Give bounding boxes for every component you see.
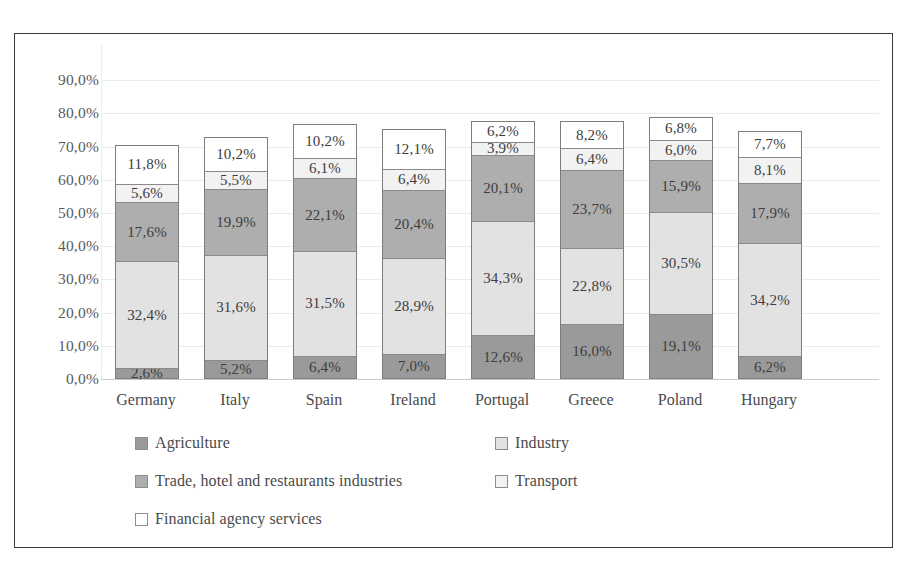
bar-segment-value-label: 22,1% xyxy=(305,208,345,223)
bar-segment-value-label: 34,2% xyxy=(750,293,790,308)
x-axis-category-label: Portugal xyxy=(471,391,533,409)
bar-segment-trade[interactable]: 22,1% xyxy=(294,179,356,252)
bar-segment-value-label: 17,9% xyxy=(750,206,790,221)
bar-stack[interactable]: 12,6%34,3%20,1%3,9%6,2% xyxy=(471,121,535,379)
bar-segment-value-label: 6,2% xyxy=(754,360,786,375)
legend-item[interactable]: Agriculture xyxy=(135,434,495,452)
bar-segment-financial[interactable]: 12,1% xyxy=(383,130,445,170)
y-axis-tick-30: 30,0% xyxy=(33,270,99,288)
bar-segment-value-label: 12,1% xyxy=(394,142,434,157)
bar-segment-industry[interactable]: 28,9% xyxy=(383,259,445,355)
bar-segment-financial[interactable]: 10,2% xyxy=(294,125,356,159)
bar-segment-financial[interactable]: 6,8% xyxy=(650,118,712,141)
bar-segment-transport[interactable]: 5,5% xyxy=(205,172,267,190)
legend-row: Trade, hotel and restaurants industriesT… xyxy=(135,472,835,490)
bar-segment-industry[interactable]: 22,8% xyxy=(561,249,623,325)
bar-segment-value-label: 5,2% xyxy=(220,362,252,377)
bar-segment-agriculture[interactable]: 12,6% xyxy=(472,336,534,378)
legend-label: Trade, hotel and restaurants industries xyxy=(155,472,402,490)
bar-segment-agriculture[interactable]: 6,2% xyxy=(739,357,801,378)
bar-segment-industry[interactable]: 31,6% xyxy=(205,256,267,361)
bar-segment-agriculture[interactable]: 6,4% xyxy=(294,357,356,378)
bar-stack[interactable]: 7,0%28,9%20,4%6,4%12,1% xyxy=(382,129,446,379)
bar-segment-value-label: 6,4% xyxy=(576,152,608,167)
gridline-90 xyxy=(101,80,879,81)
bar-segment-industry[interactable]: 34,2% xyxy=(739,244,801,358)
bar-segment-financial[interactable]: 10,2% xyxy=(205,138,267,172)
bar-segment-value-label: 20,4% xyxy=(394,217,434,232)
bar-segment-value-label: 3,9% xyxy=(487,141,519,156)
legend-swatch-icon xyxy=(495,437,508,450)
x-axis-category-label: Spain xyxy=(293,391,355,409)
bar-segment-agriculture[interactable]: 2,6% xyxy=(116,369,178,378)
bar-segment-transport[interactable]: 6,4% xyxy=(383,170,445,191)
bar-segment-value-label: 16,0% xyxy=(572,344,612,359)
bar-segment-trade[interactable]: 20,4% xyxy=(383,191,445,259)
bar-segment-value-label: 17,6% xyxy=(127,225,167,240)
bar-segment-value-label: 31,5% xyxy=(305,296,345,311)
bar-segment-value-label: 32,4% xyxy=(127,308,167,323)
bar-segment-trade[interactable]: 19,9% xyxy=(205,190,267,256)
bar-segment-value-label: 5,6% xyxy=(131,186,163,201)
bar-segment-agriculture[interactable]: 5,2% xyxy=(205,361,267,378)
bar-segment-value-label: 5,5% xyxy=(220,173,252,188)
legend-item[interactable]: Trade, hotel and restaurants industries xyxy=(135,472,495,490)
bar-segment-value-label: 11,8% xyxy=(127,157,166,172)
bar-segment-value-label: 6,2% xyxy=(487,124,519,139)
x-axis-line xyxy=(101,379,879,380)
x-axis-category-label: Italy xyxy=(204,391,266,409)
bar-segment-industry[interactable]: 31,5% xyxy=(294,252,356,357)
y-axis-tick-0: 0,0% xyxy=(33,370,99,388)
bar-segment-trade[interactable]: 15,9% xyxy=(650,161,712,214)
bar-stack[interactable]: 2,6%32,4%17,6%5,6%11,8% xyxy=(115,145,179,379)
legend-label: Financial agency services xyxy=(155,510,322,528)
bar-segment-transport[interactable]: 6,4% xyxy=(561,149,623,170)
bar-segment-transport[interactable]: 6,0% xyxy=(650,141,712,161)
legend-item[interactable]: Transport xyxy=(495,472,578,490)
bar-segment-agriculture[interactable]: 16,0% xyxy=(561,325,623,378)
bar-segment-trade[interactable]: 17,9% xyxy=(739,184,801,243)
bar-segment-value-label: 8,1% xyxy=(754,163,786,178)
bar-segment-financial[interactable]: 7,7% xyxy=(739,132,801,158)
y-axis-tick-70: 70,0% xyxy=(33,138,99,156)
bar-segment-value-label: 28,9% xyxy=(394,299,434,314)
y-axis-tick-50: 50,0% xyxy=(33,204,99,222)
bar-stack[interactable]: 16,0%22,8%23,7%6,4%8,2% xyxy=(560,121,624,379)
y-axis-tick-80: 80,0% xyxy=(33,104,99,122)
bar-segment-trade[interactable]: 17,6% xyxy=(116,203,178,261)
y-axis-tick-40: 40,0% xyxy=(33,237,99,255)
bar-segment-industry[interactable]: 32,4% xyxy=(116,262,178,370)
bar-segment-trade[interactable]: 23,7% xyxy=(561,171,623,250)
bar-segment-industry[interactable]: 34,3% xyxy=(472,222,534,336)
chart-legend: AgricultureIndustryTrade, hotel and rest… xyxy=(135,434,835,548)
bar-segment-transport[interactable]: 5,6% xyxy=(116,185,178,204)
y-axis-line xyxy=(101,44,102,380)
legend-item[interactable]: Financial agency services xyxy=(135,510,495,528)
chart-frame: 90,0%80,0%70,0%60,0%50,0%40,0%30,0%20,0%… xyxy=(14,33,893,548)
bar-segment-agriculture[interactable]: 7,0% xyxy=(383,355,445,378)
bar-segment-industry[interactable]: 30,5% xyxy=(650,213,712,314)
bar-segment-value-label: 7,7% xyxy=(754,137,786,152)
bar-segment-transport[interactable]: 3,9% xyxy=(472,143,534,156)
bar-segment-value-label: 8,2% xyxy=(576,128,608,143)
bar-segment-value-label: 7,0% xyxy=(398,359,430,374)
legend-swatch-icon xyxy=(495,475,508,488)
bar-segment-agriculture[interactable]: 19,1% xyxy=(650,315,712,378)
x-axis-category-label: Hungary xyxy=(738,391,800,409)
bar-segment-transport[interactable]: 8,1% xyxy=(739,158,801,185)
bar-segment-transport[interactable]: 6,1% xyxy=(294,159,356,179)
bar-segment-value-label: 6,8% xyxy=(665,121,697,136)
bar-segment-value-label: 30,5% xyxy=(661,256,701,271)
legend-item[interactable]: Industry xyxy=(495,434,569,452)
bar-segment-financial[interactable]: 11,8% xyxy=(116,146,178,185)
bar-segment-trade[interactable]: 20,1% xyxy=(472,156,534,223)
bar-segment-financial[interactable]: 8,2% xyxy=(561,122,623,149)
bar-stack[interactable]: 6,2%34,2%17,9%8,1%7,7% xyxy=(738,131,802,379)
bar-stack[interactable]: 6,4%31,5%22,1%6,1%10,2% xyxy=(293,124,357,379)
bar-stack[interactable]: 19,1%30,5%15,9%6,0%6,8% xyxy=(649,117,713,379)
bar-segment-financial[interactable]: 6,2% xyxy=(472,122,534,143)
bar-segment-value-label: 31,6% xyxy=(216,300,256,315)
bar-segment-value-label: 15,9% xyxy=(661,179,701,194)
bar-segment-value-label: 22,8% xyxy=(572,279,612,294)
bar-stack[interactable]: 5,2%31,6%19,9%5,5%10,2% xyxy=(204,137,268,379)
